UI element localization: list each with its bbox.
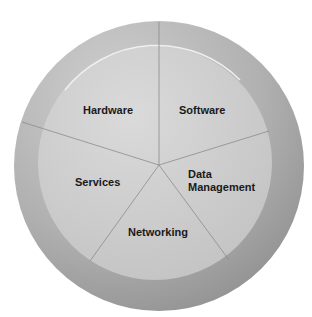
segment-label-hardware: Hardware <box>83 104 133 117</box>
segment-label-networking: Networking <box>128 226 188 239</box>
segment-label-services: Services <box>75 176 120 189</box>
segment-label-data-line2: Management <box>188 181 255 194</box>
segment-label-data-management: Data Management <box>188 168 255 194</box>
segment-label-software: Software <box>179 104 225 117</box>
segment-label-data-line1: Data <box>188 168 255 181</box>
wheel-diagram <box>0 0 312 317</box>
